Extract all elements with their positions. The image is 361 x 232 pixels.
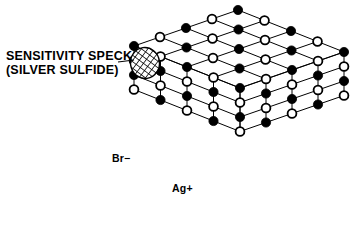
bromide-ion [261, 36, 270, 45]
silver-ion [209, 87, 218, 96]
silver-ion [182, 62, 191, 71]
bromide-ion [236, 98, 245, 107]
silver-ion [287, 65, 296, 74]
silver-ion [181, 23, 190, 32]
silver-ion [286, 26, 295, 35]
bromide-ion [288, 109, 297, 118]
bromide-ion [288, 80, 297, 89]
sensitivity-speck-label-line2: (SILVER SULFIDE) [6, 64, 118, 78]
bromide-ion [340, 91, 349, 100]
silver-ion [209, 116, 218, 125]
silver-ion [234, 25, 243, 34]
silver-ion [234, 44, 243, 53]
sensitivity-speck-label: SENSITIVITY SPECK (SILVER SULFIDE) [6, 50, 118, 77]
silver-ion [235, 83, 244, 92]
silver-ion [287, 94, 296, 103]
silver-ion [156, 95, 165, 104]
bromide-ion [209, 54, 218, 63]
silver-ion [339, 76, 348, 85]
silver-ion [182, 43, 191, 52]
silver-ion [235, 112, 244, 121]
bromide-ion [314, 57, 323, 66]
bromide-ion [236, 127, 245, 136]
bromide-ion [261, 55, 270, 64]
silver-ion [313, 100, 322, 109]
silver-ion [233, 5, 242, 14]
silver-ion [261, 89, 270, 98]
bromide-ion [313, 37, 322, 46]
silver-ion [261, 118, 270, 127]
crystal-lattice-diagram [0, 0, 361, 232]
bromide-ion [156, 33, 165, 42]
bromide-ion [183, 77, 192, 86]
lattice-ions [129, 5, 348, 136]
sensitivity-speck-label-line1: SENSITIVITY SPECK [6, 50, 118, 64]
bromide-ion [262, 104, 271, 113]
bromide-ion [340, 62, 349, 71]
silver-ion [313, 71, 322, 80]
bromide-ion [314, 86, 323, 95]
bromide-ion-label: Br− [112, 152, 130, 164]
bromide-ion [262, 75, 271, 84]
bromide-ion [209, 102, 218, 111]
bromide-ion [156, 81, 165, 90]
silver-ion [182, 91, 191, 100]
silver-ion [287, 46, 296, 55]
silver-ion [235, 64, 244, 73]
bromide-ion [208, 15, 217, 24]
figure-canvas: SENSITIVITY SPECK (SILVER SULFIDE) Br− A… [0, 0, 361, 232]
bromide-ion [183, 106, 192, 115]
silver-ion-label: Ag+ [172, 182, 193, 194]
silver-ion [339, 47, 348, 56]
bromide-ion [260, 16, 269, 25]
bromide-ion [209, 73, 218, 82]
bromide-ion [208, 34, 217, 43]
bromide-ion [130, 85, 139, 94]
